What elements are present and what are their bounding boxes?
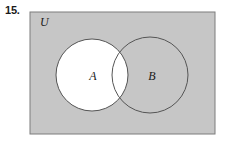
venn-diagram-figure: 15. U A B bbox=[0, 0, 227, 142]
set-b-label: B bbox=[148, 69, 156, 83]
universal-set-label: U bbox=[40, 15, 50, 29]
set-a-label: A bbox=[88, 69, 97, 83]
venn-diagram-canvas: U A B bbox=[0, 0, 227, 142]
